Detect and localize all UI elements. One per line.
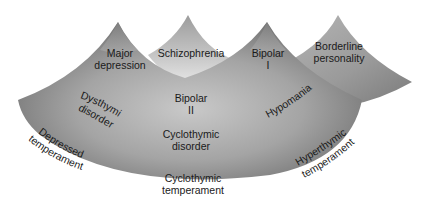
label-line: Borderline (314, 40, 365, 52)
label-line: temperament (162, 184, 224, 196)
label-line: Bipolar (175, 92, 208, 104)
label-bipolar-ii: Bipolar II (175, 92, 208, 116)
label-line: Cyclothymic (162, 172, 224, 184)
label-line: Cyclothymic (163, 128, 220, 140)
label-line: disorder (163, 140, 220, 152)
label-borderline-personality: Borderline personality (314, 40, 365, 64)
label-line: I (252, 59, 285, 71)
label-line: II (175, 104, 208, 116)
label-bipolar-i: Bipolar I (252, 47, 285, 71)
label-major-depression: Major depression (94, 47, 145, 71)
label-line: depression (94, 59, 145, 71)
spectrum-diagram: Depressed temperament Dysthymic disorder… (0, 0, 427, 204)
label-line: Bipolar (252, 47, 285, 59)
label-line: Major (94, 47, 145, 59)
label-schizophrenia: Schizophrenia (158, 47, 225, 59)
label-cyclothymic-temperament: Cyclothymic temperament (162, 172, 224, 196)
label-line: Schizophrenia (158, 47, 225, 59)
label-cyclothymic-disorder: Cyclothymic disorder (163, 128, 220, 152)
label-line: personality (314, 52, 365, 64)
